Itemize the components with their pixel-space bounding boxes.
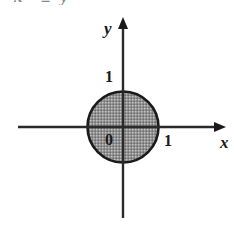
x-axis-tick-label-1: 1 [164, 133, 172, 149]
y-axis-label: y [104, 20, 112, 37]
math-figure: x² ≥ y y x 1 1 0 [0, 0, 234, 227]
y-axis-tick-label-1: 1 [105, 69, 113, 85]
coordinate-plane-svg [0, 0, 234, 227]
origin-label: 0 [105, 132, 113, 148]
x-axis-label: x [220, 134, 229, 151]
